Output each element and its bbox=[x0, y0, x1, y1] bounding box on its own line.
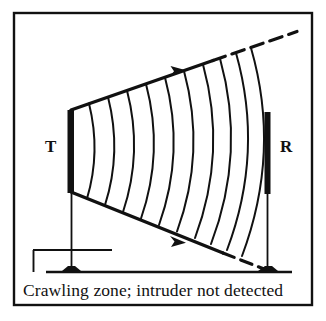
detection-zone-diagram: T R Crawling zone; intruder not detected bbox=[0, 0, 326, 321]
transmitter-label: T bbox=[45, 137, 57, 156]
wavefront-arc-group bbox=[87, 48, 264, 256]
wavefront-arc bbox=[105, 97, 114, 205]
receiver-label: R bbox=[280, 137, 293, 156]
figure-caption: Crawling zone; intruder not detected bbox=[23, 280, 283, 300]
receiver-bar bbox=[265, 112, 271, 194]
wavefront-arc bbox=[141, 84, 154, 219]
beam-upper-edge-solid bbox=[71, 61, 213, 111]
wavefront-arc bbox=[87, 104, 95, 199]
beam-lower-edge-dashed bbox=[223, 253, 269, 271]
wavefront-arc bbox=[195, 65, 213, 239]
transmitter-bar bbox=[68, 110, 75, 193]
wavefront-arc bbox=[242, 48, 264, 256]
figure-container: T R Crawling zone; intruder not detected bbox=[0, 0, 326, 321]
wavefront-arc bbox=[159, 78, 174, 226]
wavefront-arc bbox=[123, 91, 134, 213]
wavefront-arc bbox=[177, 71, 193, 232]
transmitter-post-base bbox=[62, 266, 81, 271]
beam-upper-edge-dashed bbox=[213, 32, 297, 61]
